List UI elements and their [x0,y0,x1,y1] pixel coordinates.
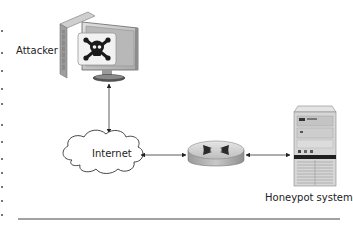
server-tower-icon [294,106,336,186]
attacker-computer-icon [60,12,138,82]
attacker-label: Attacker [16,45,58,56]
internet-label: Internet [92,148,132,159]
router-icon [188,141,244,166]
honeypot-label: Honeypot system [265,192,353,203]
